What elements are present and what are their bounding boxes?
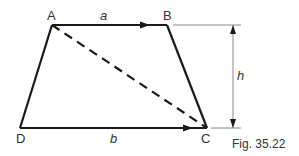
vertex-label-a: A [47, 8, 56, 23]
vertex-label-b: B [163, 8, 172, 23]
side-label-a: a [100, 8, 107, 23]
vertex-label-d: D [16, 131, 25, 146]
vertex-label-c: C [201, 131, 210, 146]
figure-caption: Fig. 35.22 [232, 137, 286, 151]
trapezium-diagram: A B C D a b h Fig. 35.22 [0, 0, 299, 156]
height-arrow-down-icon [230, 119, 236, 128]
height-label-h: h [237, 68, 244, 83]
diagonal-ac [52, 25, 207, 128]
arrow-b-icon [183, 125, 193, 132]
side-label-b: b [110, 131, 117, 146]
height-arrow-up-icon [230, 25, 236, 34]
side-da [20, 25, 52, 128]
arrow-a-icon [140, 22, 150, 29]
side-bc [167, 25, 207, 128]
